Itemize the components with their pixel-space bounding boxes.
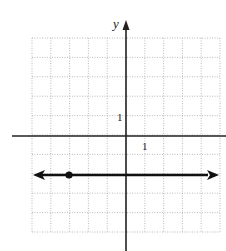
right-arrow-icon xyxy=(207,170,219,180)
plotted-point xyxy=(65,171,72,178)
y-axis-arrow-icon xyxy=(123,20,130,30)
coordinate-graph: y 1 1 xyxy=(0,0,226,251)
y-axis-label: y xyxy=(111,16,119,31)
x-tick-label: 1 xyxy=(142,140,148,152)
y-tick-label: 1 xyxy=(117,111,123,123)
